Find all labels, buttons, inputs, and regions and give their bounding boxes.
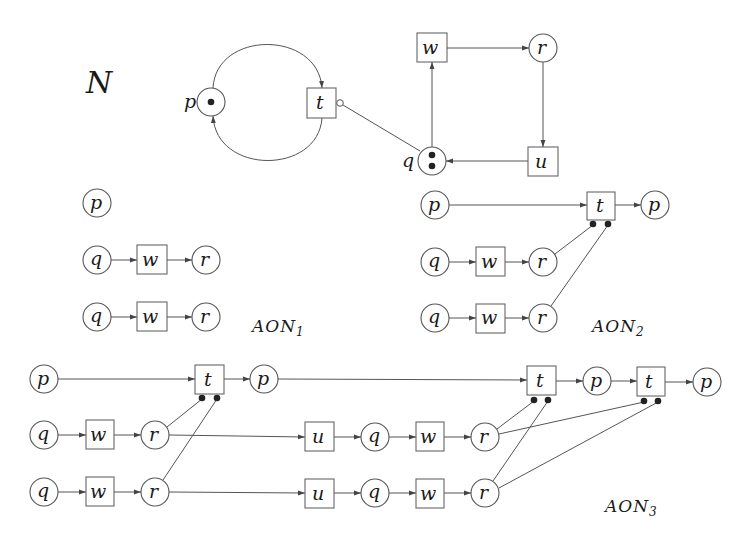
transition-w-label: w [142, 305, 158, 327]
transition-u-label: u [535, 150, 547, 172]
aon3: p t p t p t p q w r u q w [30, 365, 721, 519]
token [208, 99, 215, 106]
place-p-label: p [184, 90, 196, 112]
transition-w-label: w [142, 248, 158, 270]
aon2: p t p q w r q w r AON2 [421, 191, 669, 339]
petri-net-figure: N p t w r u [0, 0, 747, 543]
place-q-label: q [37, 479, 49, 501]
transition-t-label: t [596, 194, 604, 216]
transition-t-label: t [645, 370, 653, 392]
arc-p2-to-t2 [278, 379, 527, 380]
transition-t: t [307, 88, 336, 118]
transition-u-label: u [312, 482, 324, 504]
read-arc [493, 401, 548, 481]
read-arc-dot [641, 398, 648, 405]
read-arc-dot [605, 221, 612, 228]
transition-w-label: w [422, 36, 438, 58]
read-arc [499, 402, 644, 434]
aon1: p q w r q w r AON1 [83, 189, 305, 339]
place-q-label: q [428, 249, 440, 271]
arc-r-to-u [169, 435, 305, 437]
read-arc-dot [199, 395, 206, 402]
place-q-label: q [90, 304, 102, 326]
net-N-title: N [85, 65, 114, 100]
arc-r-to-u [169, 492, 305, 493]
transition-w-label: w [420, 425, 436, 447]
aon3-label: AON3 [603, 496, 658, 519]
place-q-label: q [37, 422, 49, 444]
transition-u: u [528, 147, 558, 176]
aon2-label: AON2 [590, 316, 645, 339]
aon1-row-2: q w r [83, 302, 220, 331]
place-q-label: q [368, 480, 380, 502]
transition-t-label: t [536, 369, 544, 391]
transition-w-label: w [481, 250, 497, 272]
place-q-label: q [90, 247, 102, 269]
place-p-label: p [700, 370, 712, 392]
token [429, 152, 436, 159]
read-arc-r2-to-t [551, 225, 608, 306]
aon1-label: AON1 [250, 316, 305, 339]
place-r: r [529, 34, 557, 62]
transition-w-label: w [420, 482, 436, 504]
place-q-label: q [428, 305, 440, 327]
place-q-label: q [402, 149, 414, 171]
place-p: p [83, 189, 111, 217]
place-p-label: p [90, 191, 102, 213]
read-arc-dot [655, 398, 662, 405]
place-p-label: p [37, 367, 49, 389]
transition-w-label: w [481, 306, 497, 328]
read-arc [499, 402, 658, 488]
read-arc [497, 401, 534, 429]
place-p-label: p [257, 367, 269, 389]
place-q-label: q [368, 424, 380, 446]
transition-w-label: w [90, 423, 106, 445]
read-arc-dot [590, 221, 597, 228]
token [429, 163, 436, 170]
transition-u-label: u [312, 425, 324, 447]
place-p-label: p [428, 193, 440, 215]
read-arc-dot [531, 397, 538, 404]
arc-t-to-p [213, 116, 322, 161]
read-arc [163, 399, 217, 480]
read-arc-r1-to-t [555, 225, 593, 254]
place-q: q [402, 147, 446, 175]
place-p-label: p [590, 369, 602, 391]
transition-w-label: w [90, 480, 106, 502]
inhibitor-arc-q-to-t [343, 105, 420, 151]
inhibitor-circle [337, 100, 344, 107]
place-p-label: p [648, 193, 660, 215]
place-p: p [184, 88, 225, 116]
aon1-row-1: q w r [83, 245, 220, 274]
transition-w: w [417, 33, 447, 62]
transition-t-label: t [316, 91, 324, 113]
read-arc-dot [545, 397, 552, 404]
net-N: N p t w r u [85, 33, 558, 176]
arc-p-to-t [213, 45, 322, 89]
read-arc [167, 399, 202, 427]
read-arc-dot [214, 395, 221, 402]
transition-t-label: t [204, 368, 212, 390]
